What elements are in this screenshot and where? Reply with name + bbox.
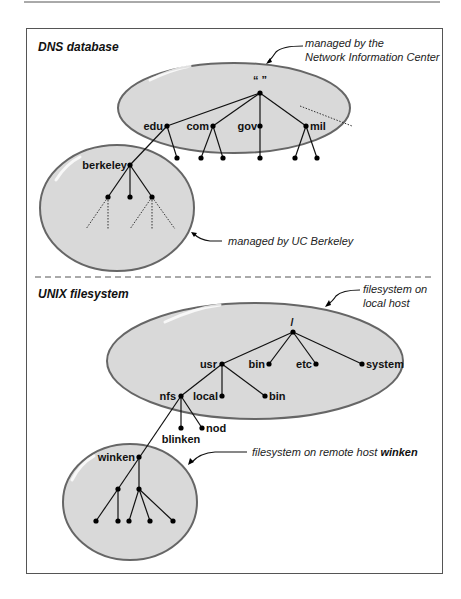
nic-callout-line1: managed by the xyxy=(305,37,384,49)
unix-section: UNIX filesystem xyxy=(38,283,427,560)
usr-node xyxy=(219,361,224,366)
blinken-label: blinken xyxy=(162,433,201,445)
dns-root-node xyxy=(257,90,262,95)
unix-section-title: UNIX filesystem xyxy=(38,287,129,301)
local-label: local xyxy=(193,390,218,402)
remote-callout-arrow-icon xyxy=(188,458,194,465)
edu-node xyxy=(164,123,169,128)
nfs-label: nfs xyxy=(160,390,177,402)
remote-callout-host: winken xyxy=(380,446,418,458)
local-callout-arrow-icon xyxy=(325,300,331,307)
nic-zone-ellipse xyxy=(118,63,350,153)
nic-callout-leader xyxy=(268,46,303,62)
dns-section-title: DNS database xyxy=(38,40,119,54)
mil-label: mil xyxy=(310,120,326,132)
berkeley-callout-leader xyxy=(194,234,222,241)
gov-label: gov xyxy=(237,120,257,132)
usr-label: usr xyxy=(200,358,218,370)
winken-label: winken xyxy=(97,451,136,463)
nic-callout-line2: Network Information Center xyxy=(305,51,441,63)
berkeley-label: berkeley xyxy=(82,159,128,171)
winken-node xyxy=(136,454,141,459)
dns-vs-unix-diagram: DNS database xyxy=(0,0,461,599)
berkeley-node xyxy=(127,162,132,167)
berkeley-callout: managed by UC Berkeley xyxy=(228,235,355,247)
etc-node xyxy=(313,361,318,366)
system-label: system xyxy=(366,358,404,370)
nod-label: nod xyxy=(206,422,226,434)
usr-bin-label: bin xyxy=(269,390,286,402)
nfs-node xyxy=(178,393,183,398)
blinken-node xyxy=(178,425,183,430)
local-callout-line2: local host xyxy=(363,297,410,309)
local-callout-leader xyxy=(328,290,360,304)
com-node xyxy=(210,123,215,128)
local-node xyxy=(219,393,224,398)
mil-node xyxy=(303,123,308,128)
dns-root-label: “ ” xyxy=(253,74,267,86)
dns-section: DNS database xyxy=(38,37,441,271)
remote-callout: filesystem on remote host winken xyxy=(252,446,418,458)
nod-node xyxy=(199,425,204,430)
fs-root-label: / xyxy=(290,316,293,328)
fs-root-node xyxy=(290,329,295,334)
gov-node xyxy=(257,123,262,128)
etc-label: etc xyxy=(296,358,312,370)
bin-label: bin xyxy=(249,358,266,370)
system-node xyxy=(359,361,364,366)
com-label: com xyxy=(186,120,209,132)
usr-bin-node xyxy=(262,393,267,398)
local-callout-line1: filesystem on xyxy=(363,283,427,295)
remote-callout-prefix: filesystem on remote host xyxy=(252,446,380,458)
bin-node xyxy=(266,361,271,366)
remote-callout-leader xyxy=(192,452,247,462)
edu-label: edu xyxy=(143,120,163,132)
